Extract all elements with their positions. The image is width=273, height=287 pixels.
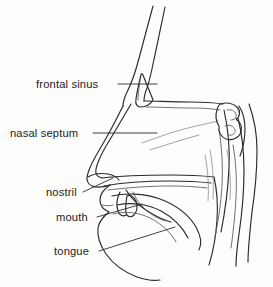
pharynx-shading-1: [210, 150, 213, 199]
hard-palate: [104, 181, 211, 186]
nasal-cavity-floor: [102, 175, 214, 178]
tongue-underside: [113, 212, 176, 242]
forehead-outer-contour: [123, 6, 153, 106]
anatomy-figure: Sagittal section of the human head showi…: [0, 0, 273, 287]
neck-posterior-contour: [248, 104, 257, 262]
sphenoid-sinus: [216, 103, 242, 140]
nasal-septum-line: [142, 121, 218, 143]
cervical-spine-anterior: [236, 118, 244, 266]
leader-tongue: [99, 227, 175, 251]
label-frontal-sinus: frontal sinus: [36, 78, 99, 90]
pharynx-shading-2: [205, 155, 208, 201]
sphenoid-inner-detail: [227, 110, 236, 120]
label-tongue: tongue: [54, 245, 89, 257]
hard-palate-lower: [108, 186, 207, 190]
pharynx-inner-line: [215, 130, 222, 237]
label-nasal-septum: nasal septum: [10, 127, 78, 139]
nasal-cavity-roof: [144, 101, 223, 104]
lips-chin-contour: [98, 185, 160, 280]
nasal-cavity-roof-inner: [146, 107, 220, 110]
labels-group: frontal sinus nasal septum nostril mouth…: [10, 78, 99, 257]
label-mouth: mouth: [56, 211, 88, 223]
anatomy-illustration: Sagittal section of the human head showi…: [0, 0, 273, 287]
leader-mouth: [97, 204, 142, 217]
label-nostril: nostril: [46, 186, 77, 198]
tongue-surface: [117, 204, 188, 238]
spine-detail-line: [231, 145, 236, 248]
nasal-cavity-anterior-border: [96, 104, 131, 178]
lower-lip-line: [102, 205, 113, 206]
